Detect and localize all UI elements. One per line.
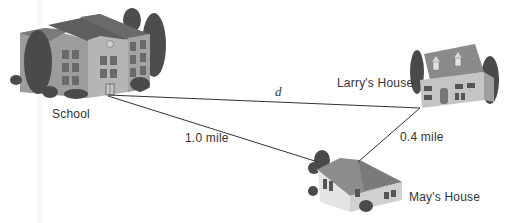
line-school-may bbox=[108, 96, 318, 162]
distance-d-label: d bbox=[275, 84, 282, 100]
mays-house-illustration bbox=[308, 150, 402, 212]
distance-school-may-label: 1.0 mile bbox=[185, 131, 229, 145]
distance-lines bbox=[108, 95, 420, 162]
mays-house-label: May's House bbox=[409, 190, 480, 204]
school-illustration bbox=[10, 8, 166, 99]
line-school-larry bbox=[108, 95, 420, 108]
larrys-house-illustration bbox=[410, 44, 499, 108]
school-label: School bbox=[52, 107, 90, 121]
larrys-house-label: Larry's House bbox=[337, 76, 413, 90]
distance-diagram: School Larry's House May's House d 1.0 m… bbox=[0, 0, 510, 223]
distance-may-larry-label: 0.4 mile bbox=[400, 130, 444, 144]
